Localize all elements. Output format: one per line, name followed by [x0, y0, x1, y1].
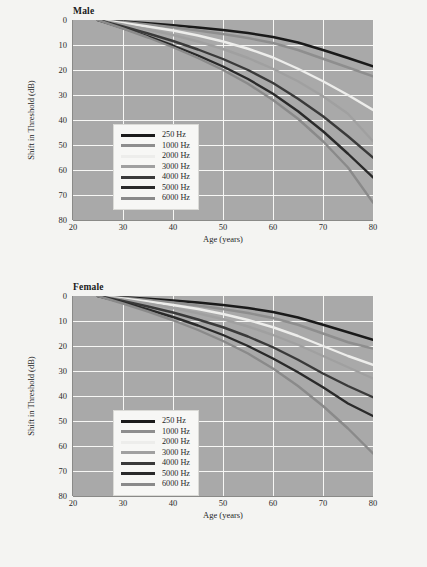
legend-item: 2000 Hz: [121, 437, 190, 448]
legend-item: 4000 Hz: [121, 458, 190, 469]
panel-title-male: Male: [73, 6, 94, 16]
legend-item: 4000 Hz: [121, 172, 190, 183]
legend-item: 250 Hz: [121, 130, 190, 141]
legend-item: 2000 Hz: [121, 151, 190, 162]
x-axis-title-female: Age (years): [73, 510, 373, 520]
x-tick-label: 30: [108, 498, 138, 508]
legend-item: 3000 Hz: [121, 448, 190, 459]
legend-item: 6000 Hz: [121, 479, 190, 490]
y-tick-label: 70: [37, 466, 67, 476]
legend-label: 4000 Hz: [162, 458, 190, 469]
legend-label: 6000 Hz: [162, 479, 190, 490]
legend-male: 250 Hz1000 Hz2000 Hz3000 Hz4000 Hz5000 H…: [113, 124, 199, 210]
x-tick-label: 70: [308, 498, 338, 508]
legend-label: 250 Hz: [162, 130, 186, 141]
y-tick-label: 40: [37, 391, 67, 401]
y-tick-label: 60: [37, 165, 67, 175]
y-tick-label: 50: [37, 416, 67, 426]
y-tick-label: 50: [37, 140, 67, 150]
legend-swatch-5000-hz: [121, 472, 155, 475]
y-tick-label: 60: [37, 441, 67, 451]
legend-swatch-4000-hz: [121, 462, 155, 465]
legend-label: 1000 Hz: [162, 427, 190, 438]
y-tick-label: 30: [37, 366, 67, 376]
legend-item: 5000 Hz: [121, 469, 190, 480]
legend-swatch-3000-hz: [121, 451, 155, 454]
legend-item: 6000 Hz: [121, 193, 190, 204]
y-axis-title-text: Shift in Threshold (dB): [26, 356, 36, 435]
legend-label: 5000 Hz: [162, 469, 190, 480]
y-tick-label: 20: [37, 65, 67, 75]
y-tick-label: 10: [37, 316, 67, 326]
panel-female: Female Shift in Threshold (dB) 203040506…: [0, 282, 427, 564]
x-tick-label: 80: [358, 498, 388, 508]
y-tick-label: 40: [37, 115, 67, 125]
legend-label: 3000 Hz: [162, 162, 190, 173]
legend-swatch-250-hz: [121, 134, 155, 137]
legend-swatch-1000-hz: [121, 430, 155, 433]
legend-label: 2000 Hz: [162, 437, 190, 448]
legend-swatch-1000-hz: [121, 144, 155, 147]
x-tick-label: 40: [158, 222, 188, 232]
legend-label: 3000 Hz: [162, 448, 190, 459]
legend-item: 1000 Hz: [121, 427, 190, 438]
x-tick-label: 50: [208, 222, 238, 232]
legend-label: 6000 Hz: [162, 193, 190, 204]
legend-swatch-3000-hz: [121, 165, 155, 168]
panel-title-female: Female: [73, 282, 104, 292]
y-tick-label: 80: [37, 215, 67, 225]
legend-swatch-2000-hz: [121, 441, 155, 444]
panel-male: Male Shift in Threshold (dB) 20304050607…: [0, 6, 427, 278]
legend-label: 5000 Hz: [162, 183, 190, 194]
gridline-vertical: [373, 296, 374, 496]
legend-swatch-6000-hz: [121, 483, 155, 486]
y-tick-label: 0: [37, 291, 67, 301]
x-tick-label: 70: [308, 222, 338, 232]
y-tick-label: 30: [37, 90, 67, 100]
x-tick-label: 50: [208, 498, 238, 508]
y-tick-label: 0: [37, 15, 67, 25]
legend-swatch-2000-hz: [121, 155, 155, 158]
legend-item: 5000 Hz: [121, 183, 190, 194]
legend-label: 2000 Hz: [162, 151, 190, 162]
x-tick-label: 60: [258, 222, 288, 232]
legend-swatch-4000-hz: [121, 176, 155, 179]
y-axis-title-female: Shift in Threshold (dB): [24, 296, 38, 496]
legend-swatch-5000-hz: [121, 186, 155, 189]
series-line-5000-hz: [98, 296, 373, 416]
y-tick-label: 70: [37, 190, 67, 200]
x-axis-title-male: Age (years): [73, 234, 373, 244]
legend-label: 4000 Hz: [162, 172, 190, 183]
x-tick-label: 60: [258, 498, 288, 508]
y-tick-label: 80: [37, 491, 67, 501]
x-tick-label: 40: [158, 498, 188, 508]
y-axis-title-text: Shift in Threshold (dB): [26, 80, 36, 159]
gridline-vertical: [373, 20, 374, 220]
x-tick-label: 80: [358, 222, 388, 232]
y-tick-label: 20: [37, 341, 67, 351]
legend-item: 3000 Hz: [121, 162, 190, 173]
y-tick-label: 10: [37, 40, 67, 50]
legend-swatch-6000-hz: [121, 197, 155, 200]
legend-item: 250 Hz: [121, 416, 190, 427]
legend-female: 250 Hz1000 Hz2000 Hz3000 Hz4000 Hz5000 H…: [113, 410, 199, 496]
legend-swatch-250-hz: [121, 420, 155, 423]
legend-label: 1000 Hz: [162, 141, 190, 152]
y-axis-title-male: Shift in Threshold (dB): [24, 20, 38, 220]
legend-label: 250 Hz: [162, 416, 186, 427]
legend-item: 1000 Hz: [121, 141, 190, 152]
x-tick-label: 30: [108, 222, 138, 232]
figure: Male Shift in Threshold (dB) 20304050607…: [0, 0, 427, 567]
